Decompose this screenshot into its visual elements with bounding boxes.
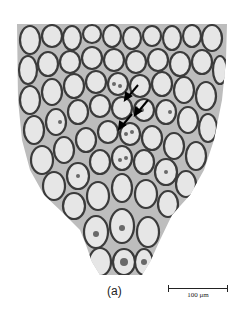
root-tip-micrograph — [0, 0, 241, 313]
scale-label: 100 μm — [168, 291, 228, 299]
scale-bar: 100 μm — [168, 285, 228, 299]
tissue-section — [0, 0, 241, 313]
panel-label: (a) — [107, 284, 122, 298]
scale-line — [168, 288, 228, 289]
